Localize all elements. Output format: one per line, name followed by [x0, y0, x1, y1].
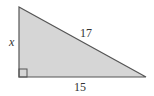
label-horizontal-leg: 15: [74, 80, 86, 94]
label-vertical-leg: x: [8, 35, 15, 49]
triangle-diagram: x 17 15: [0, 0, 154, 96]
right-triangle: [19, 7, 146, 77]
label-hypotenuse: 17: [80, 26, 92, 40]
